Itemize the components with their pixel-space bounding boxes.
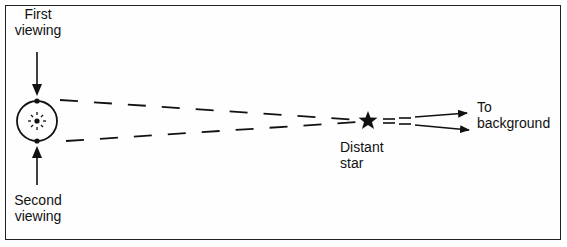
first-viewing-label: First viewing <box>12 6 64 38</box>
background-rays <box>383 113 469 130</box>
second-position-dot <box>34 138 39 143</box>
first-sight-line <box>60 100 358 120</box>
second-sight-line <box>66 122 358 141</box>
second-viewing-arrow <box>32 146 42 185</box>
distant-star-label: Distant star <box>340 139 384 171</box>
second-viewing-label: Second viewing <box>6 192 70 224</box>
distant-star-line1: Distant <box>340 139 384 155</box>
to-background-line1: To <box>477 99 550 115</box>
second-viewing-line1: Second <box>6 192 70 208</box>
distant-star-line2: star <box>340 155 384 171</box>
to-background-line2: background <box>477 115 550 131</box>
to-background-label: To background <box>477 99 550 131</box>
first-viewing-arrow <box>32 52 42 96</box>
first-position-dot <box>34 98 39 103</box>
first-viewing-line1: First <box>12 6 64 22</box>
star-icon <box>359 111 378 129</box>
sun-icon <box>28 112 46 130</box>
second-viewing-line2: viewing <box>6 208 70 224</box>
first-viewing-line2: viewing <box>12 22 64 38</box>
